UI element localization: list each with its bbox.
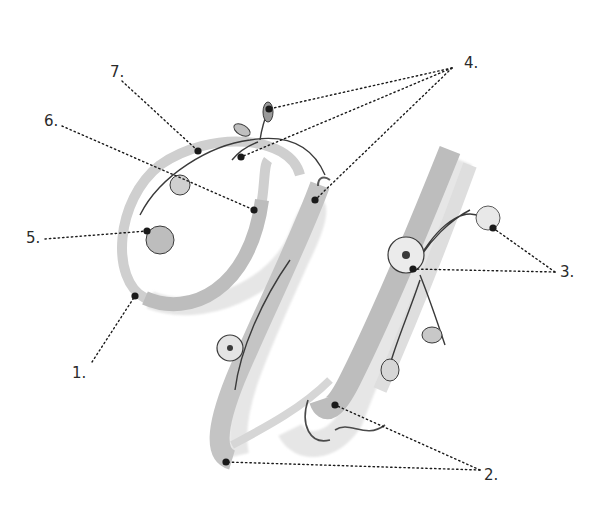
callout-label-2: 2. <box>484 468 498 483</box>
target-dot-4 <box>311 196 318 203</box>
flower-lower-left <box>217 335 243 361</box>
target-dot-3 <box>489 224 496 231</box>
callout-label-6: 6. <box>44 114 58 129</box>
leader-line-3 <box>493 228 555 272</box>
flower-right-top <box>476 206 500 230</box>
leaf-top <box>232 121 253 139</box>
callout-label-1: 1. <box>72 366 86 381</box>
target-dot-2 <box>222 458 229 465</box>
leader-line-4 <box>269 68 452 109</box>
leader-line-1 <box>92 296 135 362</box>
target-dot-1 <box>131 292 138 299</box>
bud-right-lower <box>381 359 399 381</box>
leader-line-7 <box>122 81 198 151</box>
target-dot-3 <box>409 265 416 272</box>
callout-label-5: 5. <box>26 231 40 246</box>
target-dot-5 <box>143 227 150 234</box>
leader-line-2 <box>226 462 480 470</box>
callout-label-4: 4. <box>464 56 478 71</box>
callout-label-7: 7. <box>110 65 124 80</box>
target-dot-2 <box>331 401 338 408</box>
leader-line-5 <box>45 231 147 239</box>
target-dot-6 <box>250 206 257 213</box>
illustrated-letter-figure <box>0 0 596 517</box>
target-dot-7 <box>194 147 201 154</box>
target-dot-4 <box>265 105 272 112</box>
callout-label-3: 3. <box>560 265 574 280</box>
flower-right-large <box>388 237 424 273</box>
target-dot-4 <box>237 153 244 160</box>
bud-right-mid <box>422 327 442 343</box>
